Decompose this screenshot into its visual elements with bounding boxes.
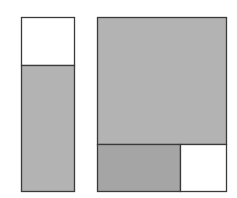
left-top-region [22, 18, 75, 66]
right-bottom-right-region [181, 145, 227, 192]
right-top-region [98, 18, 227, 145]
diagram-canvas [0, 0, 237, 198]
left-figure [22, 18, 75, 192]
left-bottom-region [22, 66, 75, 192]
right-bottom-left-region [98, 145, 181, 192]
right-figure [98, 18, 227, 192]
